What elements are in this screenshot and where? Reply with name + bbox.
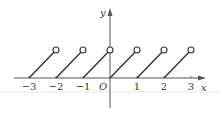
- function-segment: [83, 52, 108, 78]
- x-tick-label: −3: [22, 81, 37, 92]
- y-axis-arrow-icon: [108, 8, 113, 16]
- function-segment: [164, 52, 189, 78]
- x-axis-label: x: [201, 82, 207, 93]
- open-endpoint-icon: [107, 47, 113, 53]
- x-tick-label: 2: [161, 81, 167, 92]
- origin-label: O: [99, 81, 107, 92]
- function-segment: [110, 52, 135, 78]
- open-endpoint-icon: [53, 47, 59, 53]
- open-endpoint-icon: [134, 47, 140, 53]
- function-segment: [137, 52, 162, 78]
- x-axis-arrow-icon: [198, 76, 206, 81]
- function-segment: [56, 52, 81, 78]
- x-tick-label: −2: [49, 81, 64, 92]
- open-endpoint-icon: [80, 47, 86, 53]
- open-endpoint-icon: [161, 47, 167, 53]
- function-segment: [29, 52, 54, 78]
- x-tick-label: 1: [134, 81, 140, 92]
- y-axis-label: y: [99, 7, 106, 18]
- open-endpoint-icon: [188, 47, 194, 53]
- x-tick-label: 3: [188, 81, 194, 92]
- sawtooth-plot: xyO−3−2−1123: [0, 0, 220, 113]
- x-tick-label: −1: [76, 81, 91, 92]
